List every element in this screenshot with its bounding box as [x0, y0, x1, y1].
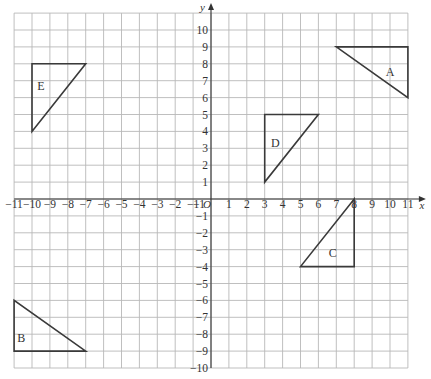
x-tick-label: 2 [244, 198, 250, 210]
x-tick-label: 4 [280, 198, 286, 210]
x-tick-label: −4 [133, 198, 145, 210]
x-tick-label: 6 [316, 198, 322, 210]
axes [14, 3, 426, 368]
x-tick-label: −6 [97, 198, 109, 210]
x-tick-label: 1 [226, 198, 232, 210]
origin-label: O [203, 198, 211, 210]
y-tick-label: −4 [196, 261, 208, 273]
x-tick-label: −3 [151, 198, 163, 210]
y-tick-label: −5 [196, 278, 208, 290]
x-tick-label: 3 [262, 198, 268, 210]
y-tick-label: 9 [202, 41, 208, 53]
y-tick-label: 7 [202, 75, 208, 87]
triangle-label-c: C [329, 246, 337, 260]
y-tick-label: 6 [202, 92, 208, 104]
y-tick-label: 5 [202, 109, 208, 121]
y-tick-label: −9 [196, 345, 208, 357]
x-tick-label: 7 [333, 198, 339, 210]
x-tick-label: −5 [115, 198, 127, 210]
coordinate-grid: −11−10−9−8−7−6−5−4−3−2−11234567891011−1O… [0, 0, 431, 379]
y-tick-label: 2 [202, 159, 208, 171]
y-tick-label: −7 [196, 311, 208, 323]
x-tick-label: −8 [62, 198, 74, 210]
x-tick-label: −7 [80, 198, 92, 210]
x-tick-label: −9 [44, 198, 56, 210]
x-tick-label: −11 [5, 198, 23, 210]
x-tick-label: 11 [402, 198, 413, 210]
y-tick-label: 8 [202, 58, 208, 70]
x-tick-label: 10 [384, 198, 396, 210]
triangle-label-b: B [17, 331, 25, 345]
y-tick-label: −10 [190, 362, 208, 374]
y-axis-name: y [199, 1, 205, 13]
x-tick-label: −10 [23, 198, 41, 210]
x-tick-label: −2 [169, 198, 181, 210]
x-tick-label: 5 [298, 198, 304, 210]
y-tick-label: 1 [202, 176, 208, 188]
triangle-label-e: E [37, 79, 44, 93]
y-tick-label: 10 [197, 24, 209, 36]
y-tick-label: 3 [202, 142, 208, 154]
x-tick-label: 9 [369, 198, 375, 210]
x-axis-name: x [418, 199, 424, 211]
y-axis-arrow-icon [208, 3, 214, 10]
y-tick-label: −3 [196, 244, 208, 256]
triangle-label-a: A [386, 65, 395, 79]
triangle-label-d: D [271, 136, 280, 150]
y-tick-label: −6 [196, 294, 208, 306]
y-tick-label: 4 [202, 125, 208, 137]
y-tick-label: −2 [196, 227, 208, 239]
y-tick-label: −1 [196, 210, 208, 222]
y-tick-label: −8 [196, 328, 208, 340]
